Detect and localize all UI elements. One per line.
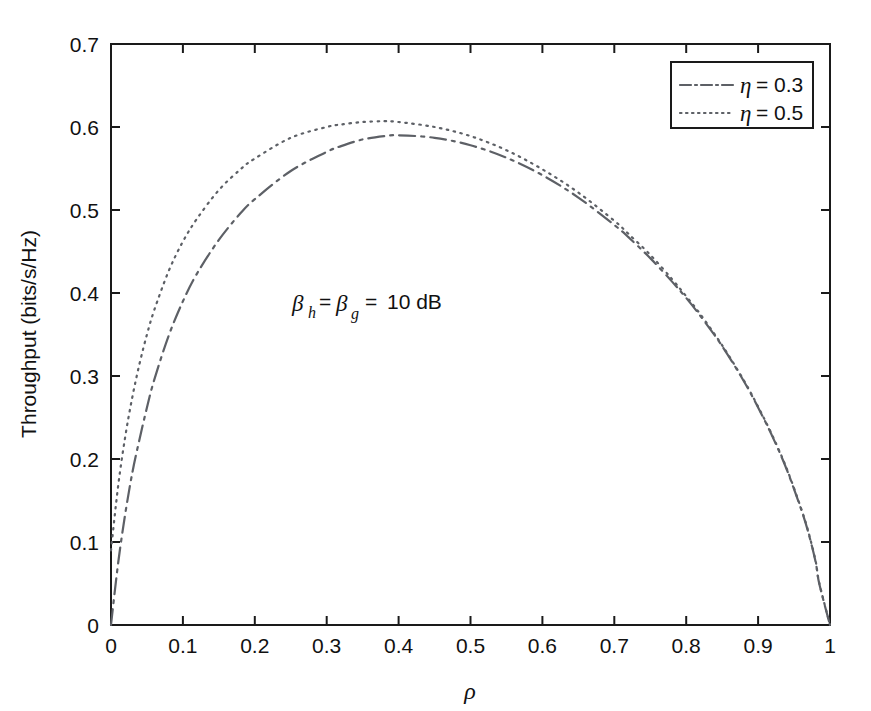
- legend-label-eta-0-3: = 0.3: [756, 73, 803, 96]
- beta-equals-1: =: [319, 290, 331, 313]
- beta-value: 10 dB: [387, 290, 442, 313]
- y-tick-label: 0.1: [70, 531, 99, 554]
- legend[interactable]: η = 0.3 η = 0.5: [671, 62, 813, 128]
- x-tick-label: 0.5: [456, 634, 485, 657]
- legend-label-eta-0-5: = 0.5: [756, 101, 803, 124]
- x-tick-label: 0.8: [672, 634, 701, 657]
- beta-equals-2: =: [365, 290, 377, 313]
- x-tick-label: 0.4: [384, 634, 414, 657]
- x-tick-label: 0.7: [600, 634, 629, 657]
- y-tick-label: 0.5: [70, 199, 99, 222]
- x-axis-title: ρ: [463, 678, 476, 704]
- x-tick-label: 0.3: [312, 634, 341, 657]
- beta-g-subscript: g: [351, 305, 359, 323]
- x-tick-label: 0.6: [528, 634, 557, 657]
- y-tick-label: 0.2: [70, 448, 99, 471]
- legend-eta-symbol-1: η: [740, 73, 751, 98]
- beta-h-subscript: h: [308, 304, 316, 321]
- y-tick-label: 0: [87, 614, 99, 637]
- legend-eta-symbol-2: η: [740, 101, 751, 126]
- y-tick-label: 0.3: [70, 365, 99, 388]
- y-axis-title: Throughput (bits/s/Hz): [17, 230, 40, 438]
- x-tick-label: 0.1: [168, 634, 197, 657]
- beta-h-symbol: β: [291, 291, 304, 316]
- x-tick-label: 0.9: [743, 634, 772, 657]
- y-tick-label: 0.6: [70, 116, 99, 139]
- x-tick-label: 0: [105, 634, 117, 657]
- y-tick-label: 0.7: [70, 33, 99, 56]
- x-tick-label: 1: [824, 634, 836, 657]
- x-tick-label: 0.2: [240, 634, 269, 657]
- beta-g-symbol: β: [335, 291, 348, 316]
- y-tick-label: 0.4: [70, 282, 100, 305]
- chart-figure: 00.10.20.30.40.50.60.70.80.91 00.10.20.3…: [0, 0, 871, 711]
- chart-svg: 00.10.20.30.40.50.60.70.80.91 00.10.20.3…: [0, 0, 871, 711]
